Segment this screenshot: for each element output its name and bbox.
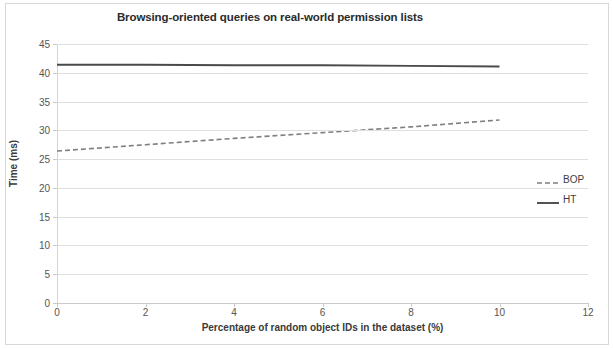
- x-tick-label: 0: [42, 307, 72, 318]
- series-line-ht: [57, 65, 500, 67]
- y-tick-label: 30: [24, 125, 50, 136]
- y-tick-label: 20: [24, 182, 50, 193]
- gridline: [57, 274, 588, 275]
- y-tick-label: 45: [24, 39, 50, 50]
- y-tick-mark: [53, 188, 57, 189]
- y-axis-title: Time (ms): [8, 119, 19, 209]
- gridline: [57, 102, 588, 103]
- plot-area: [57, 44, 588, 303]
- x-tick-mark: [588, 303, 589, 307]
- y-tick-label: 25: [24, 154, 50, 165]
- x-tick-mark: [411, 303, 412, 307]
- y-tick-label: 5: [24, 269, 50, 280]
- x-tick-mark: [323, 303, 324, 307]
- x-tick-label: 10: [485, 307, 515, 318]
- x-tick-label: 12: [573, 307, 603, 318]
- gridline: [57, 188, 588, 189]
- legend-swatch-ht: [537, 194, 559, 204]
- chart-legend: BOPHT: [537, 172, 607, 214]
- series-line-bop: [57, 120, 500, 151]
- y-tick-mark: [53, 73, 57, 74]
- gridline: [57, 73, 588, 74]
- x-tick-mark: [57, 303, 58, 307]
- legend-label: HT: [563, 194, 576, 205]
- x-tick-label: 8: [396, 307, 426, 318]
- y-tick-label: 35: [24, 96, 50, 107]
- series-lines: [57, 44, 588, 303]
- gridline: [57, 130, 588, 131]
- y-tick-label: 40: [24, 67, 50, 78]
- y-axis-tick-labels: 051015202530354045: [22, 0, 50, 348]
- gridline: [57, 217, 588, 218]
- y-tick-mark: [53, 217, 57, 218]
- y-tick-mark: [53, 44, 57, 45]
- y-tick-label: 15: [24, 211, 50, 222]
- x-axis-title: Percentage of random object IDs in the d…: [57, 322, 588, 333]
- y-tick-mark: [53, 245, 57, 246]
- gridline: [57, 159, 588, 160]
- x-tick-mark: [146, 303, 147, 307]
- y-tick-mark: [53, 102, 57, 103]
- y-tick-label: 10: [24, 240, 50, 251]
- legend-label: BOP: [563, 174, 584, 185]
- chart-title: Browsing-oriented queries on real-world …: [0, 11, 540, 23]
- gridline: [57, 245, 588, 246]
- legend-item-ht[interactable]: HT: [537, 192, 576, 206]
- y-tick-mark: [53, 130, 57, 131]
- x-tick-label: 6: [308, 307, 338, 318]
- x-tick-mark: [234, 303, 235, 307]
- gridline: [57, 44, 588, 45]
- legend-item-bop[interactable]: BOP: [537, 172, 584, 186]
- y-tick-mark: [53, 274, 57, 275]
- chart-figure: Browsing-oriented queries on real-world …: [0, 0, 613, 348]
- legend-swatch-bop: [537, 174, 559, 184]
- x-tick-label: 4: [219, 307, 249, 318]
- y-tick-mark: [53, 159, 57, 160]
- x-tick-label: 2: [131, 307, 161, 318]
- x-tick-mark: [500, 303, 501, 307]
